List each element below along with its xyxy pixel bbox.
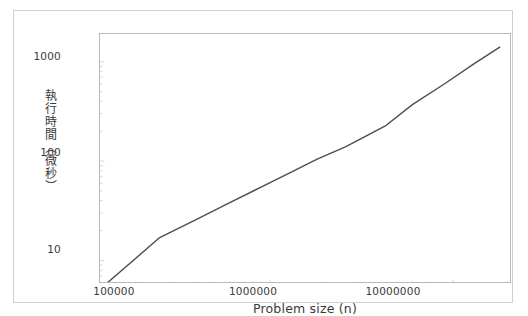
series-line-execution-time	[108, 47, 500, 282]
x-axis-title: Problem size (n)	[99, 301, 511, 316]
x-tick-label-10000000: 10000000	[338, 285, 448, 297]
minor-tick-group	[100, 62, 508, 283]
y-tick-label-1000: 1000	[1, 51, 61, 62]
plot-area	[99, 33, 511, 283]
y-tick-label-10: 10	[1, 244, 61, 255]
x-tick-label-1000000: 1000000	[198, 285, 308, 297]
y-axis-title: 執行時間（微秒）	[36, 89, 56, 193]
x-tick-label-100000: 100000	[59, 285, 169, 297]
figure-panel: 1000 100 10 100000 1000000 10000000 Prob…	[13, 10, 513, 303]
data-line-chart	[100, 34, 511, 283]
